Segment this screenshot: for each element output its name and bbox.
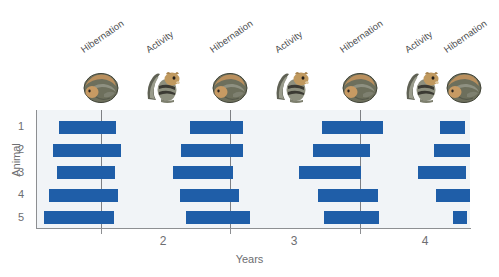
x-tick-mark [101, 228, 102, 234]
hibernation-bar [190, 121, 243, 134]
hibernation-bar [418, 166, 466, 179]
hibernating-squirrel-icon [443, 66, 485, 106]
hibernation-bar [453, 211, 467, 224]
hibernating-squirrel-icon [209, 66, 251, 106]
x-tick-mark [230, 228, 231, 234]
y-axis-label: Animal [10, 130, 22, 190]
hibernation-bar [181, 144, 243, 157]
hibernation-bar [186, 211, 249, 224]
active-squirrel-icon [274, 66, 316, 106]
hibernation-bar [173, 166, 233, 179]
y-axis-line [36, 110, 37, 229]
phase-label-activity: Activity [143, 28, 175, 55]
x-tick-label: 2 [148, 234, 178, 248]
hibernation-bar [324, 211, 380, 224]
hibernation-bar [440, 121, 465, 134]
hibernation-activity-chart: 1 2 3 4 5 Animal 2 3 4 Years Hibernation… [0, 0, 499, 277]
hibernation-bar [180, 189, 240, 202]
phase-label-hibernation: Hibernation [441, 17, 488, 55]
y-tick-label: 4 [10, 189, 24, 200]
hibernation-bar [59, 121, 116, 134]
phase-label-activity: Activity [273, 28, 305, 55]
hibernation-bar [436, 189, 470, 202]
hibernation-bar [299, 166, 361, 179]
hibernation-bar [322, 121, 383, 134]
hibernation-bar [57, 166, 115, 179]
hibernation-bar [49, 189, 118, 202]
x-tick-label: 4 [410, 234, 440, 248]
hibernation-bar [44, 211, 114, 224]
x-axis-label: Years [0, 253, 499, 265]
plot-area [36, 110, 470, 228]
phase-label-hibernation: Hibernation [208, 17, 255, 55]
y-tick-label: 5 [10, 212, 24, 223]
active-squirrel-icon [404, 66, 446, 106]
hibernation-bar [318, 189, 378, 202]
x-tick-mark [360, 228, 361, 234]
phase-label-hibernation: Hibernation [338, 17, 385, 55]
hibernating-squirrel-icon [339, 66, 381, 106]
hibernation-bar [434, 144, 470, 157]
hibernation-bar [53, 144, 122, 157]
phase-label-hibernation: Hibernation [78, 17, 125, 55]
active-squirrel-icon [145, 66, 187, 106]
hibernating-squirrel-icon [80, 66, 122, 106]
phase-label-activity: Activity [402, 28, 434, 55]
hibernation-bar [313, 144, 370, 157]
x-tick-label: 3 [279, 234, 309, 248]
